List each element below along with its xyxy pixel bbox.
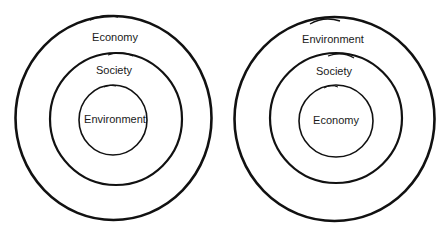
middle-ring-label: Society [316, 65, 352, 77]
outer-ring-label: Environment [302, 33, 364, 45]
middle-ring-label: Society [96, 64, 132, 76]
outer-ring-label: Economy [92, 31, 138, 43]
nested-diagram-left: Economy Society Environment [0, 0, 224, 230]
nested-diagram-right: Environment Society Economy [224, 0, 448, 230]
inner-ring-label: Environment [84, 113, 146, 125]
inner-ring-label: Economy [313, 114, 359, 126]
